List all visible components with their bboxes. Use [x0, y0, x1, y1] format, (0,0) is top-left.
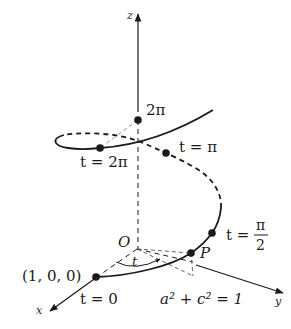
t-half-pi-prefix: t =: [226, 226, 249, 244]
x-axis-label: x: [36, 304, 43, 317]
point-t-half-pi: [208, 229, 216, 237]
z-axis-label: z: [126, 9, 133, 22]
angle-t-label: t: [132, 254, 138, 269]
point-t0: [92, 273, 100, 281]
t-pi-label: t = π: [179, 138, 217, 156]
point-t-pi: [162, 149, 170, 157]
angle-arc: [116, 259, 160, 266]
helix-figure: z x y O 2π t = 2π t = π t = π 2 P t (1, …: [0, 0, 291, 329]
origin-label: O: [118, 233, 130, 251]
z-2pi-label: 2π: [146, 101, 166, 119]
t-2pi-label: t = 2π: [80, 153, 128, 171]
helix-diagram: z x y O 2π t = 2π t = π t = π 2 P t (1, …: [0, 0, 291, 329]
t-half-pi-numerator: π: [256, 217, 265, 233]
point-t-2pi: [96, 144, 104, 152]
start-coord-label: (1, 0, 0): [22, 267, 81, 285]
y-axis-label: y: [274, 295, 282, 308]
t0-label: t = 0: [80, 290, 118, 308]
point-P: [187, 249, 195, 257]
equation-label: a² + c² = 1: [160, 290, 243, 308]
t-half-pi-denominator: 2: [256, 237, 265, 253]
point-z-2pi: [134, 116, 142, 124]
p-label: P: [199, 244, 211, 262]
